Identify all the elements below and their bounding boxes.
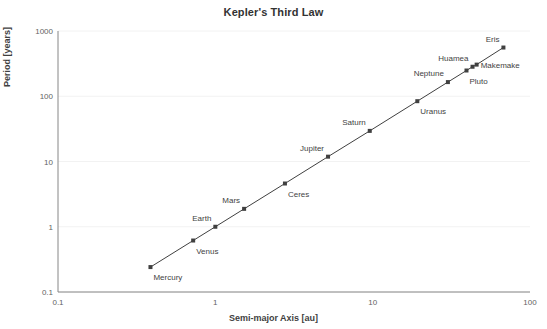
- x-tick-label: 1: [213, 298, 218, 307]
- data-point-label: Ceres: [288, 190, 309, 199]
- plot-area: 0.11101001000 0.1110100 MercuryVenusEart…: [0, 0, 547, 329]
- y-tick-label: 1: [49, 223, 54, 232]
- y-tick-labels: 0.11101001000: [35, 27, 53, 297]
- data-point-marker[interactable]: [475, 63, 479, 67]
- x-tick-label: 0.1: [52, 298, 64, 307]
- y-tick-label: 1000: [35, 27, 53, 36]
- data-point-label: Mercury: [153, 273, 182, 282]
- y-tick-label: 100: [40, 92, 54, 101]
- data-point-marker[interactable]: [283, 182, 287, 186]
- data-point-label: Jupiter: [300, 144, 324, 153]
- data-point-marker[interactable]: [191, 239, 195, 243]
- data-point-label: Venus: [196, 247, 218, 256]
- data-point-label: Eris: [486, 35, 500, 44]
- data-point-marker[interactable]: [326, 155, 330, 159]
- data-point-marker[interactable]: [446, 80, 450, 84]
- y-tick-label: 0.1: [42, 288, 54, 297]
- data-point-label: Earth: [192, 214, 211, 223]
- data-point-marker[interactable]: [501, 46, 505, 50]
- data-point-label: Mars: [222, 196, 240, 205]
- data-point-label: Pluto: [469, 77, 488, 86]
- data-point-label: Saturn: [342, 118, 366, 127]
- x-tick-label: 10: [368, 298, 377, 307]
- data-point-label: Huamea: [438, 54, 469, 63]
- data-point-marker[interactable]: [415, 99, 419, 103]
- data-point-marker[interactable]: [368, 129, 372, 133]
- data-point-label: Uranus: [420, 107, 446, 116]
- data-point-marker[interactable]: [242, 207, 246, 211]
- x-tick-labels: 0.1110100: [52, 298, 537, 307]
- chart-container: Kepler's Third Law Period [years] Semi-m…: [0, 0, 547, 329]
- gridlines: [58, 31, 530, 292]
- data-point-marker[interactable]: [213, 225, 217, 229]
- y-tick-label: 10: [44, 158, 53, 167]
- data-point-marker[interactable]: [471, 65, 475, 69]
- data-point-marker[interactable]: [148, 265, 152, 269]
- x-tick-label: 100: [523, 298, 537, 307]
- data-point-label: Makemake: [481, 61, 521, 70]
- data-point-marker[interactable]: [464, 69, 468, 73]
- data-point-label: Neptune: [414, 69, 445, 78]
